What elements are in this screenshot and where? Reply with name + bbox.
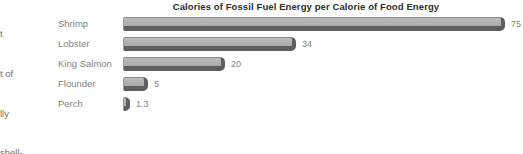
category-label: King Salmon <box>58 56 112 71</box>
bar <box>123 17 505 31</box>
value-label: 20 <box>231 57 241 71</box>
value-label: 75 <box>511 17 521 31</box>
bar-row: Flounder 5 <box>0 76 523 91</box>
bar <box>123 57 225 71</box>
category-label: Flounder <box>58 76 96 91</box>
category-label: Perch <box>58 96 83 111</box>
chart-title: Calories of Fossil Fuel Energy per Calor… <box>110 1 502 12</box>
value-label: 1.3 <box>136 97 149 111</box>
value-label: 5 <box>154 77 159 91</box>
value-label: 34 <box>302 37 312 51</box>
bar-row: Perch 1.3 <box>0 96 523 111</box>
bar-row: King Salmon 20 <box>0 56 523 71</box>
scanned-page: t t of lly shell- Calories of Fossil Fue… <box>0 0 523 154</box>
bar <box>123 37 296 51</box>
category-label: Lobster <box>58 36 90 51</box>
category-label: Shrimp <box>58 16 88 31</box>
bar <box>123 77 148 91</box>
bar <box>123 97 130 111</box>
bar-row: Shrimp 75 <box>0 16 523 31</box>
text-fragment-line: shell- <box>0 146 23 154</box>
bar-row: Lobster 34 <box>0 36 523 51</box>
